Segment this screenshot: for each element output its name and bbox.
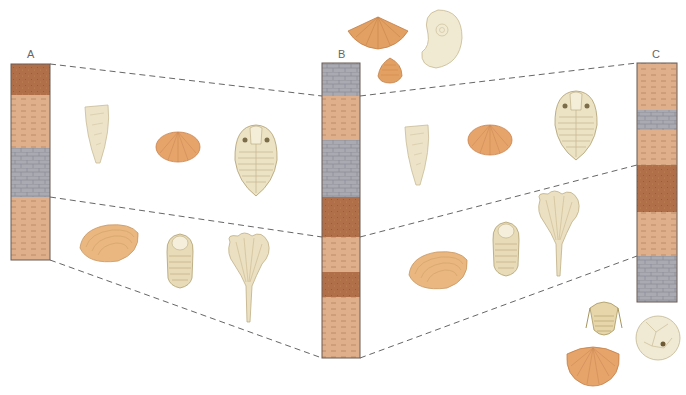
fossil-clam bbox=[409, 252, 467, 289]
fossil-trilobite-spined bbox=[586, 302, 622, 335]
fossil-trilobite-large bbox=[555, 91, 597, 160]
layer-limestone bbox=[637, 110, 677, 130]
fossil-crinoid bbox=[229, 233, 269, 322]
fossil-brachiopod bbox=[156, 132, 200, 162]
fossil-scallop-brachiopod bbox=[567, 347, 619, 386]
layer-shale bbox=[322, 297, 360, 358]
layer-sandstone bbox=[637, 165, 677, 212]
fossil-crinoid bbox=[539, 191, 579, 276]
layer-limestone bbox=[322, 140, 360, 197]
layer-shale bbox=[637, 130, 677, 165]
layer-limestone bbox=[322, 63, 360, 96]
fossil-ammonite bbox=[422, 10, 462, 68]
layer-shale bbox=[637, 212, 677, 256]
fossil-clam bbox=[80, 225, 138, 262]
layer-limestone bbox=[11, 148, 50, 197]
correlation-line bbox=[50, 64, 322, 96]
fossil-trilobite-small bbox=[493, 222, 519, 276]
strat-column-c bbox=[637, 63, 677, 302]
fossil-trilobite-small bbox=[167, 234, 193, 288]
fossil-cone-coral bbox=[85, 105, 109, 163]
layer-shale bbox=[637, 63, 677, 110]
correlation-line bbox=[360, 63, 637, 96]
fossil-small-brachiopod bbox=[378, 58, 402, 83]
layer-sandstone bbox=[322, 197, 360, 237]
strat-column-b bbox=[322, 63, 360, 358]
layer-shale bbox=[11, 197, 50, 260]
layer-shale bbox=[322, 96, 360, 140]
layer-limestone bbox=[637, 256, 677, 302]
layer-shale bbox=[322, 237, 360, 272]
strat-column-a bbox=[11, 64, 50, 260]
layer-shale bbox=[11, 95, 50, 148]
fossil-cone-coral bbox=[405, 125, 429, 185]
layer-sandstone bbox=[322, 272, 360, 297]
fossil-cystoid bbox=[636, 316, 680, 360]
fossil-brachiopod bbox=[468, 125, 512, 155]
correlation-diagram bbox=[0, 0, 686, 395]
fossil-spirifer-brachiopod bbox=[348, 17, 408, 49]
fossil-trilobite-large bbox=[235, 125, 277, 196]
layer-sandstone bbox=[11, 64, 50, 95]
